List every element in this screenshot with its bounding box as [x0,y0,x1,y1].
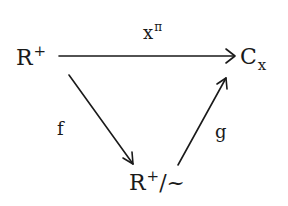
node-r-plus-quotient-base: R [129,170,146,195]
arrow-f [69,75,133,164]
node-r-plus-base: R [16,45,33,70]
node-r-plus-quotient-sup: + [147,167,160,185]
node-r-plus-quotient: R+/~ [129,172,185,194]
arrow-x-pi [59,49,235,63]
edge-label-f: f [57,120,64,138]
node-r-plus-quotient-suffix: /~ [159,170,185,195]
node-c-x-base: C [240,44,257,69]
node-c-x: Cx [240,46,266,68]
node-c-x-sub: x [258,56,266,74]
edge-label-x-pi-base: x [143,22,153,43]
edge-label-g: g [215,123,227,141]
edge-label-x-pi-sup: π [154,20,162,34]
node-r-plus-sup: + [34,42,47,60]
commutative-diagram: R+ Cx R+/~ xπ f g [0,0,288,206]
node-r-plus: R+ [16,47,46,69]
edge-label-x-pi: xπ [143,24,162,42]
